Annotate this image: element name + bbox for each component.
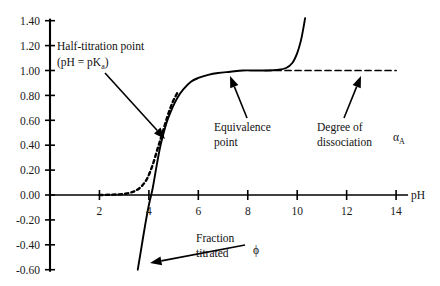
- titration-curve-chart: 1.40 1.20 1.00 0.80 0.60 0.40 0.20 0.00 …: [0, 0, 440, 286]
- y-tick-label: 0.20: [20, 164, 40, 176]
- fraction-titrated-annotation-line1: Fraction: [196, 232, 235, 244]
- x-tick-label: 8: [245, 205, 251, 217]
- x-tick-label: 6: [195, 205, 201, 217]
- y-tick-label: 1.00: [20, 65, 40, 77]
- fraction-titrated-annotation-line2: titrated: [196, 247, 229, 259]
- y-tick-label: -0.60: [16, 264, 40, 276]
- dissociation-annotation-line2: dissociation: [317, 136, 372, 148]
- x-tick-label: 4: [146, 205, 152, 217]
- y-tick-label: 1.20: [20, 40, 40, 52]
- y-tick-label: 1.40: [20, 15, 40, 27]
- x-tick-label: 12: [341, 205, 353, 217]
- y-tick-label: 0.40: [20, 139, 40, 151]
- phi-symbol: ϕ: [253, 244, 259, 257]
- equivalence-annotation-line2: point: [214, 136, 238, 149]
- x-tick-label: 2: [97, 205, 103, 217]
- pka-suffix: ): [105, 56, 109, 69]
- y-tick-label: -0.20: [16, 214, 40, 226]
- x-axis-title: pH: [411, 189, 425, 202]
- half-titration-annotation-line1: Half-titration point: [57, 40, 145, 53]
- x-tick-label: 14: [390, 205, 402, 217]
- y-tick-label: -0.40: [16, 239, 40, 251]
- pka-prefix: (pH = pK: [57, 56, 102, 69]
- chart-canvas: 1.40 1.20 1.00 0.80 0.60 0.40 0.20 0.00 …: [0, 0, 440, 286]
- y-tick-label: 0.60: [20, 115, 40, 127]
- x-tick-label: 10: [291, 205, 303, 217]
- dissociation-annotation-line1: Degree of: [317, 121, 363, 134]
- alpha-subscript: A: [399, 137, 405, 146]
- equivalence-annotation-line1: Equivalence: [214, 121, 271, 134]
- y-tick-label: 0.00: [20, 189, 40, 201]
- y-tick-label: 0.80: [20, 90, 40, 102]
